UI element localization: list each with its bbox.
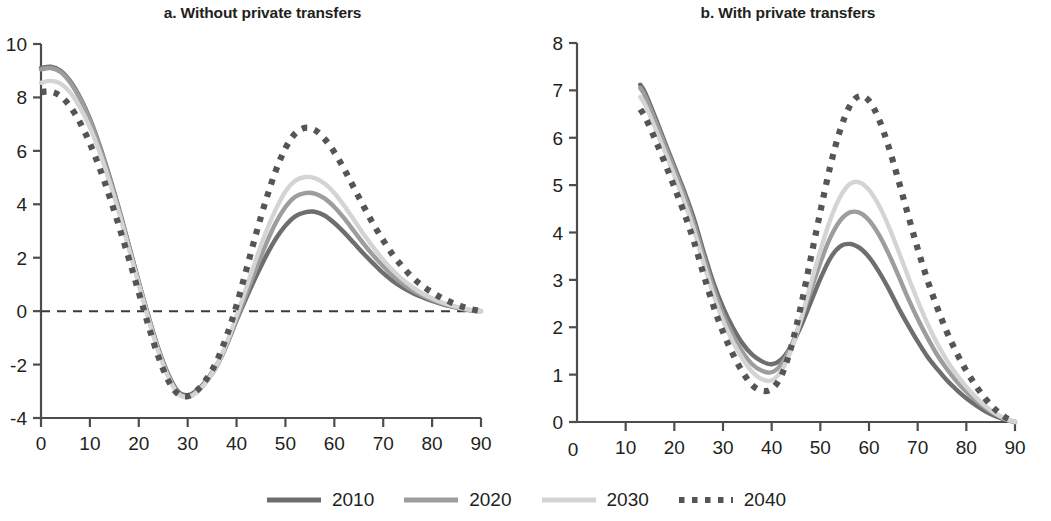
y-tick-label: 2 — [552, 317, 563, 338]
chart-legend: 2010202020302040 — [0, 478, 1051, 521]
x-tick-label: 0 — [36, 433, 47, 454]
legend-label-2030: 2030 — [607, 490, 649, 509]
y-tick-label: 4 — [16, 194, 27, 215]
y-tick-label: 4 — [552, 223, 563, 244]
legend-item-2020: 2020 — [402, 490, 511, 509]
legend-label-2020: 2020 — [469, 490, 511, 509]
legend-swatch-2030 — [540, 494, 598, 506]
y-tick-label: 8 — [552, 33, 563, 54]
y-tick-label: -4 — [10, 408, 27, 429]
x-tick-label: 90 — [1004, 437, 1025, 458]
x-tick-label: 20 — [664, 437, 685, 458]
legend-swatch-2040 — [677, 494, 735, 506]
legend-item-2010: 2010 — [265, 490, 374, 509]
x-tick-label: 20 — [128, 433, 149, 454]
x-tick-label: 80 — [422, 433, 443, 454]
x-tick-label: 60 — [324, 433, 345, 454]
x-tick-label: 40 — [761, 437, 782, 458]
x-tick-label: 30 — [712, 437, 733, 458]
legend-swatch-2020 — [402, 494, 460, 506]
y-tick-label: 7 — [552, 80, 563, 101]
panel-b-with-private-transfers: b. With private transfers 01234567810203… — [525, 0, 1051, 470]
y-tick-label: 3 — [552, 270, 563, 291]
x-tick-label: 90 — [470, 433, 491, 454]
figure-two-panel-chart: a. Without private transfers -4-20246810… — [0, 0, 1051, 521]
legend-label-2040: 2040 — [744, 490, 786, 509]
y-tick-label: -2 — [10, 355, 27, 376]
legend-label-2010: 2010 — [332, 490, 374, 509]
y-tick-label: 6 — [552, 128, 563, 149]
x-origin-label: 0 — [568, 439, 579, 460]
x-tick-label: 10 — [79, 433, 100, 454]
x-tick-label: 80 — [956, 437, 977, 458]
y-tick-label: 1 — [552, 365, 563, 386]
y-tick-label: 5 — [552, 175, 563, 196]
series-line-2010 — [640, 85, 1015, 422]
legend-swatch-2010 — [265, 494, 323, 506]
y-tick-label: 0 — [552, 412, 563, 433]
x-tick-label: 30 — [177, 433, 198, 454]
panel-a-plot: -4-202468100102030405060708090Age (years… — [0, 0, 525, 470]
x-tick-label: 50 — [275, 433, 296, 454]
y-tick-label: 8 — [16, 87, 27, 108]
y-tick-label: 2 — [16, 248, 27, 269]
x-tick-label: 10 — [615, 437, 636, 458]
series-line-2010 — [41, 67, 481, 396]
y-tick-label: 0 — [16, 301, 27, 322]
series-line-2020 — [41, 68, 481, 397]
y-tick-label: 6 — [16, 141, 27, 162]
x-tick-label: 40 — [226, 433, 247, 454]
series-line-2030 — [41, 81, 481, 397]
x-tick-label: 50 — [810, 437, 831, 458]
legend-item-2040: 2040 — [677, 490, 786, 509]
panel-a-without-private-transfers: a. Without private transfers -4-20246810… — [0, 0, 525, 470]
x-tick-label: 70 — [373, 433, 394, 454]
y-tick-label: 10 — [6, 34, 27, 55]
panel-b-plot: 0123456781020304050607080900Age (years) — [525, 0, 1051, 470]
legend-item-2030: 2030 — [540, 490, 649, 509]
x-tick-label: 70 — [907, 437, 928, 458]
x-tick-label: 60 — [858, 437, 879, 458]
